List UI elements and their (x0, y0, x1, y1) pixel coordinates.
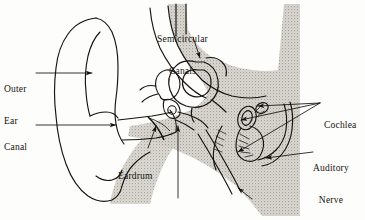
label-canal-line1: Canal (4, 142, 27, 153)
label-eardrum: Eardrum (118, 150, 153, 203)
label-eardrum-line1: Eardrum (118, 171, 153, 182)
label-semicircular-canals: Semicircular Canals (157, 13, 208, 97)
label-canal: Canal (4, 121, 27, 174)
label-middle-ear: Middle Ear (152, 200, 197, 220)
label-eustachian-tube: Eustachian Tube (258, 200, 324, 220)
ear-anatomy-diagram: Outer Ear Canal Semicircular Canals Coch… (0, 0, 365, 220)
label-outer-ear-line1: Outer (4, 84, 27, 95)
label-semicircular-canals-line2: Canals (157, 66, 208, 77)
label-semicircular-canals-line1: Semicircular (157, 34, 208, 45)
label-cochlea-line1: Cochlea (324, 120, 357, 131)
label-auditory-nerve-line1: Auditory (313, 163, 349, 174)
